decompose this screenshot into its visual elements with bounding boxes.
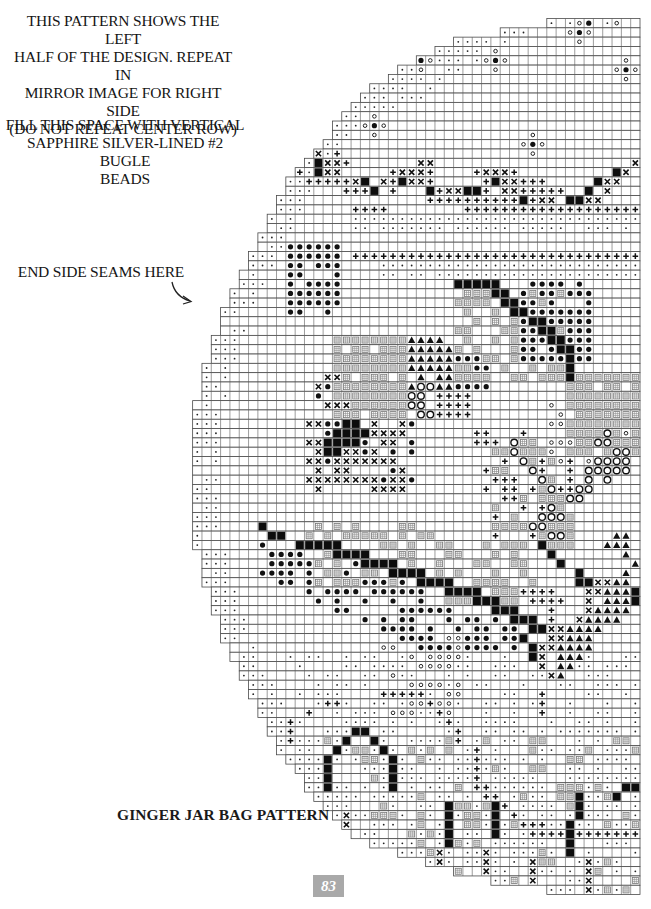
bead-symbol-dot bbox=[457, 265, 459, 267]
bead-symbol-dot bbox=[485, 814, 487, 816]
bead-symbol-bead bbox=[512, 626, 517, 631]
bead-symbol-square bbox=[482, 280, 490, 288]
bead-symbol-dot bbox=[355, 712, 357, 714]
bead-symbol-dot bbox=[569, 684, 571, 686]
bead-symbol-dot bbox=[318, 768, 320, 770]
bead-symbol-bead bbox=[521, 328, 526, 333]
bead-symbol-dot bbox=[513, 665, 515, 667]
bead-symbol-dot bbox=[364, 227, 366, 229]
bead-symbol-dot bbox=[495, 721, 497, 723]
bead-symbol-dot bbox=[411, 787, 413, 789]
bead-symbol-dot bbox=[224, 563, 226, 565]
bead-symbol-dot bbox=[383, 731, 385, 733]
bead-symbol-bead bbox=[325, 384, 330, 389]
bead-symbol-dot bbox=[411, 824, 413, 826]
bead-symbol-bead bbox=[577, 319, 582, 324]
bead-symbol-dot bbox=[401, 218, 403, 220]
bead-symbol-dot bbox=[308, 759, 310, 761]
bead-symbol-dot bbox=[411, 227, 413, 229]
bead-symbol-dot bbox=[355, 665, 357, 667]
bead-symbol-dot bbox=[625, 749, 627, 751]
bead-symbol-dot bbox=[243, 675, 245, 677]
bead-symbol-dot bbox=[420, 777, 422, 779]
bead-symbol-dot bbox=[597, 796, 599, 798]
bead-symbol-dot bbox=[588, 796, 590, 798]
bead-symbol-dot bbox=[224, 367, 226, 369]
bead-symbol-dot bbox=[429, 693, 431, 695]
bead-symbol-square bbox=[389, 783, 397, 791]
bead-symbol-dot bbox=[551, 218, 553, 220]
bead-symbol-square bbox=[333, 429, 341, 437]
bead-symbol-dot bbox=[579, 777, 581, 779]
bead-symbol-dot bbox=[476, 60, 478, 62]
bead-symbol-dot bbox=[606, 218, 608, 220]
bead-symbol-bead bbox=[390, 468, 395, 473]
bead-symbol-dot bbox=[215, 600, 217, 602]
bead-symbol-dot bbox=[476, 684, 478, 686]
bead-symbol-bead bbox=[474, 636, 479, 641]
bead-symbol-dot bbox=[290, 759, 292, 761]
bead-symbol-square bbox=[417, 578, 425, 586]
bead-symbol-dot bbox=[318, 703, 320, 705]
bead-symbol-bead bbox=[362, 598, 367, 603]
bead-symbol-square bbox=[566, 355, 574, 363]
bead-symbol-dot bbox=[467, 218, 469, 220]
bead-symbol-bead bbox=[577, 347, 582, 352]
bead-symbol-dot bbox=[299, 759, 301, 761]
bead-symbol-dot bbox=[457, 69, 459, 71]
bead-symbol-square bbox=[613, 168, 621, 176]
bead-symbol-dot bbox=[271, 684, 273, 686]
bead-symbol-square bbox=[342, 737, 350, 745]
bead-symbol-dot bbox=[290, 181, 292, 183]
bead-symbol-dot bbox=[569, 880, 571, 882]
bead-symbol-bead bbox=[390, 598, 395, 603]
pattern-row bbox=[332, 121, 640, 130]
bead-symbol-square bbox=[352, 727, 360, 735]
bead-symbol-dot bbox=[513, 796, 515, 798]
bead-symbol-dot bbox=[560, 218, 562, 220]
bead-symbol-dot bbox=[532, 805, 534, 807]
bead-symbol-square bbox=[454, 588, 462, 596]
bead-symbol-square bbox=[501, 289, 509, 297]
bead-symbol-square bbox=[566, 345, 574, 353]
bead-symbol-dot bbox=[355, 115, 357, 117]
bead-symbol-square bbox=[492, 289, 500, 297]
bead-symbol-dot bbox=[392, 88, 394, 90]
bead-symbol-dot bbox=[569, 265, 571, 267]
bead-symbol-dot bbox=[364, 833, 366, 835]
bead-symbol-dot bbox=[262, 255, 264, 257]
bead-symbol-dot bbox=[327, 693, 329, 695]
bead-symbol-bead bbox=[409, 421, 414, 426]
bead-symbol-bead bbox=[586, 337, 591, 342]
bead-symbol-bead bbox=[279, 561, 284, 566]
bead-symbol-bead bbox=[474, 645, 479, 650]
bead-symbol-bead bbox=[418, 608, 423, 613]
bead-symbol-square bbox=[520, 616, 528, 624]
bead-symbol-square bbox=[324, 541, 332, 549]
bead-symbol-dot bbox=[224, 572, 226, 574]
bead-symbol-dot bbox=[551, 824, 553, 826]
bead-symbol-dot bbox=[616, 684, 618, 686]
bead-symbol-dot bbox=[467, 749, 469, 751]
bead-symbol-square bbox=[510, 299, 518, 307]
bead-symbol-dot bbox=[346, 656, 348, 658]
bead-symbol-dot bbox=[411, 842, 413, 844]
bead-symbol-bead bbox=[418, 636, 423, 641]
bead-symbol-bead bbox=[446, 608, 451, 613]
bead-symbol-dot bbox=[616, 861, 618, 863]
bead-symbol-dot bbox=[439, 842, 441, 844]
bead-symbol-bead bbox=[586, 300, 591, 305]
bead-symbol-dot bbox=[262, 675, 264, 677]
bead-symbol-dot bbox=[495, 703, 497, 705]
bead-symbol-dot bbox=[476, 833, 478, 835]
bead-symbol-dot bbox=[429, 265, 431, 267]
bead-symbol-square bbox=[585, 578, 593, 586]
bead-symbol-dot bbox=[439, 78, 441, 80]
bead-symbol-dot bbox=[224, 395, 226, 397]
bead-symbol-dot bbox=[429, 814, 431, 816]
bead-symbol-dot bbox=[560, 731, 562, 733]
bead-symbol-dot bbox=[401, 78, 403, 80]
bead-symbol-dot bbox=[234, 358, 236, 360]
bead-symbol-dot bbox=[355, 796, 357, 798]
bead-symbol-dot bbox=[485, 227, 487, 229]
